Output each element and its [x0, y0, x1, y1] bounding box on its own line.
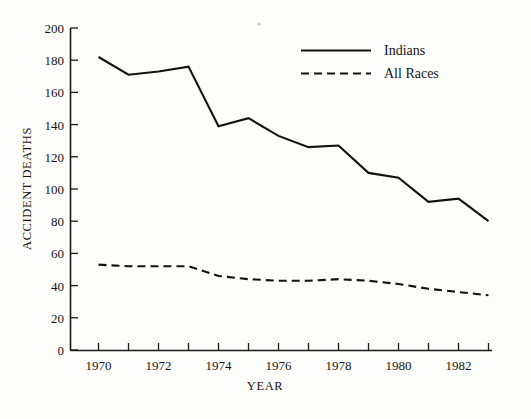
x-tick-label-1972: 1972	[146, 358, 172, 373]
scan-artifact-speck	[257, 22, 260, 25]
line-chart: 200 180 160 140 120 100 80 60 40 20 0 AC…	[0, 0, 531, 419]
y-tick-label-80: 80	[51, 214, 64, 229]
y-tick-label-60: 60	[51, 246, 64, 261]
y-tick-label-140: 140	[45, 118, 65, 133]
x-tick-label-1980: 1980	[386, 358, 412, 373]
y-tick-label-40: 40	[51, 279, 64, 294]
x-tick-label-1978: 1978	[326, 358, 352, 373]
x-axis-title: YEAR	[247, 379, 283, 393]
y-tick-label-200: 200	[45, 21, 65, 36]
y-tick-label-0: 0	[58, 343, 65, 358]
y-tick-label-180: 180	[45, 53, 65, 68]
y-tick-label-20: 20	[51, 311, 64, 326]
figure-page: 200 180 160 140 120 100 80 60 40 20 0 AC…	[0, 0, 531, 419]
y-tick-label-160: 160	[45, 85, 65, 100]
y-axis-title: ACCIDENT DEATHS	[20, 127, 34, 250]
x-tick-label-1976: 1976	[266, 358, 293, 373]
x-tick-label-1982: 1982	[446, 358, 472, 373]
legend-label-all-races: All Races	[384, 66, 439, 81]
y-tick-label-100: 100	[45, 182, 65, 197]
x-tick-label-1974: 1974	[206, 358, 233, 373]
legend-label-indians: Indians	[384, 43, 425, 58]
y-tick-label-120: 120	[45, 150, 65, 165]
x-tick-label-1970: 1970	[86, 358, 112, 373]
chart-background	[0, 0, 531, 419]
